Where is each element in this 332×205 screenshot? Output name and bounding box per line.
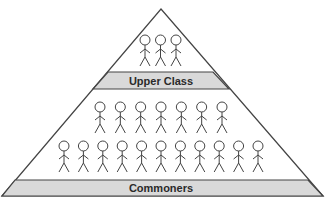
- upper-class-label: Upper Class: [129, 75, 193, 87]
- commoners-label: Commoners: [129, 182, 193, 194]
- pyramid-diagram: Upper Class Commoners: [0, 0, 332, 205]
